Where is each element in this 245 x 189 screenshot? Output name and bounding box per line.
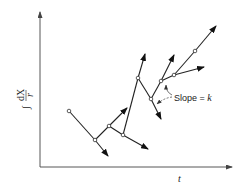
y-axis-label: ∫ dX r: [15, 88, 35, 110]
node-marker: [136, 76, 140, 80]
svg-text:r: r: [24, 93, 35, 97]
node-marker: [67, 109, 71, 113]
arrow-icon: [138, 54, 145, 78]
node-marker: [193, 49, 197, 53]
arrow-icon: [123, 135, 148, 149]
arrow-icon: [174, 67, 204, 75]
node-marker: [93, 138, 97, 142]
node-marker: [107, 124, 111, 128]
arrow-icon: [161, 55, 174, 81]
svg-text:∫: ∫: [20, 105, 32, 110]
arrow-icon: [109, 108, 127, 126]
diagram-canvas: Slope = k t ∫ dX r: [0, 0, 245, 189]
node-marker: [159, 79, 163, 83]
slope-leader-lower: [157, 97, 172, 104]
arrow-icon: [95, 140, 108, 156]
node-marker: [172, 73, 176, 77]
slope-label: Slope = k: [174, 92, 212, 103]
x-axis-label: t: [178, 173, 181, 184]
arrow-icon: [151, 99, 161, 119]
slope-leader-upper: [166, 85, 172, 95]
arrow-icon: [195, 26, 216, 51]
node-marker: [121, 133, 125, 137]
node-marker: [149, 97, 153, 101]
